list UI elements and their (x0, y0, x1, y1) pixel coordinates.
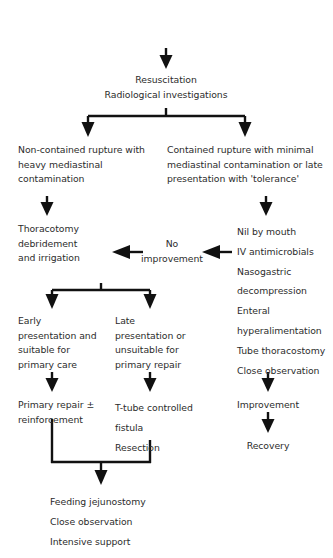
node-thoracotomy: Thoracotomy debridement and irrigation (18, 222, 118, 266)
node-feeding-jejunostomy: Feeding jejunostomy Close observation In… (50, 492, 200, 551)
node-recovery: Recovery (213, 439, 323, 454)
node-primary-repair: Primary repair ± reinforcement (18, 398, 123, 427)
arrow-improvement-to-recovery (262, 412, 275, 433)
split-bar-after-investigations (82, 108, 252, 137)
arrow-late-to-ttube (144, 372, 157, 392)
node-conservative-management: Nil by mouth IV antimicrobials Nasogastr… (237, 222, 333, 380)
node-contained-rupture: Contained rupture with minimal mediastin… (167, 143, 332, 187)
split-bar-after-thoracotomy (46, 283, 157, 309)
arrow-title-to-resuscitation (160, 48, 173, 69)
node-no-improvement: No improvement (132, 237, 212, 266)
node-improvement: Improvement (213, 398, 323, 413)
node-t-tube-fistula: T-tube controlled fistula Resection (115, 398, 225, 457)
arrow-contained-to-conservative (260, 196, 273, 216)
node-non-contained-rupture: Non-contained rupture with heavy mediast… (18, 143, 158, 187)
node-late-presentation: Late presentation or unsuitable for prim… (115, 314, 210, 372)
node-resuscitation: Resuscitation Radiological investigation… (46, 73, 286, 102)
arrow-noncontained-to-thoracotomy (41, 196, 54, 216)
node-early-presentation: Early presentation and suitable for prim… (18, 314, 113, 372)
flowchart-canvas: Resuscitation Radiological investigation… (0, 0, 333, 558)
arrow-early-to-primaryrepair (46, 372, 59, 392)
